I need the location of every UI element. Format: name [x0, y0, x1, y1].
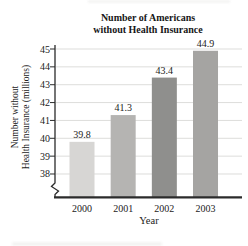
bar-2001	[111, 115, 136, 197]
bar-2002	[152, 78, 177, 198]
bar-2003	[193, 51, 218, 198]
bar-chart-figure: Number of Americans without Health Insur…	[0, 0, 248, 246]
y-tick-label-42: 42	[26, 97, 50, 108]
bar-value-label-2001: 41.3	[101, 102, 145, 113]
y-tick-label-38: 38	[26, 168, 50, 179]
bar-value-label-2003: 44.9	[184, 38, 228, 49]
x-axis-label: Year	[55, 215, 243, 226]
bar-value-label-2000: 39.8	[60, 129, 104, 140]
y-tick-label-45: 45	[26, 44, 50, 55]
bar-2000	[70, 142, 95, 198]
y-tick-label-43: 43	[26, 79, 50, 90]
y-tick-label-39: 39	[26, 151, 50, 162]
x-category-label-2002: 2002	[142, 203, 186, 215]
y-tick-label-41: 41	[26, 115, 50, 126]
y-tick-label-40: 40	[26, 133, 50, 144]
bar-value-label-2002: 43.4	[142, 65, 186, 76]
x-category-label-2001: 2001	[101, 203, 145, 215]
y-tick-label-44: 44	[26, 61, 50, 72]
cropped-text-artifact-bottom	[12, 242, 162, 246]
x-category-label-2000: 2000	[60, 203, 104, 215]
x-category-label-2003: 2003	[184, 203, 228, 215]
